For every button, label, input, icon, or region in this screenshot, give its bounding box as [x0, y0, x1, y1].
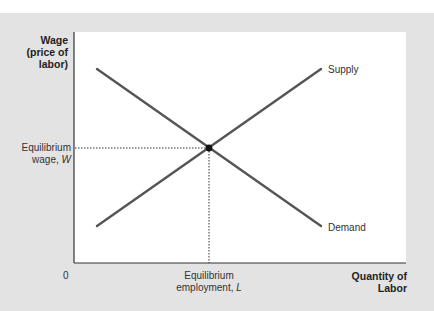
- wage-label-line1: Equilibrium: [4, 142, 71, 154]
- wage-label-text: wage,: [32, 154, 61, 165]
- equilibrium-employment-label: Equilibrium employment, L: [164, 270, 254, 294]
- origin-label: 0: [63, 270, 69, 282]
- employment-variable: L: [236, 282, 242, 293]
- y-axis-label-line: labor): [10, 58, 68, 70]
- equilibrium-wage-label: Equilibrium wage, W: [4, 142, 71, 166]
- equilibrium-point: [206, 145, 213, 152]
- demand-label: Demand: [328, 222, 366, 234]
- supply-label: Supply: [328, 64, 359, 76]
- x-axis-label-line: Quantity of: [330, 270, 407, 282]
- y-axis-label-line: Wage: [10, 34, 68, 46]
- x-axis-label: Quantity of Labor: [330, 270, 407, 294]
- wage-variable: W: [62, 154, 71, 165]
- employment-label-line2: employment, L: [164, 282, 254, 294]
- wage-label-line2: wage, W: [4, 154, 71, 166]
- employment-label-text: employment,: [176, 282, 236, 293]
- y-axis-label: Wage (price of labor): [10, 34, 68, 70]
- employment-label-line1: Equilibrium: [164, 270, 254, 282]
- y-axis-label-line: (price of: [10, 46, 68, 58]
- x-axis-label-line: Labor: [330, 282, 407, 294]
